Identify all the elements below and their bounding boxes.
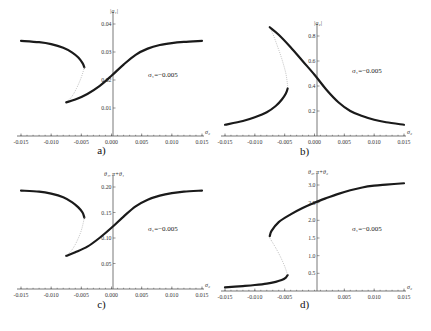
x-tick-label: 0.010: [368, 294, 381, 300]
x-tick-label: 0.010: [368, 139, 381, 145]
x-tick-label: -0.005: [74, 292, 89, 298]
panel-b: -0.015-0.010-0.0050.0000.0050.0100.0150.…: [218, 20, 413, 158]
x-tick-label: 0.000: [105, 292, 118, 298]
x-tick-label: 0.015: [397, 139, 410, 145]
x-tick-label: 0.010: [165, 292, 178, 298]
y-axis-label: θ₁, π+θ₁: [104, 171, 124, 177]
x-tick-label: 0.015: [195, 292, 208, 298]
sigma1-annotation: σ₁=−0.005: [352, 225, 382, 233]
y-tick-label: 0.4: [308, 83, 315, 89]
y-tick-label: 2.0: [308, 217, 315, 223]
y-tick-label: 0.8: [308, 33, 315, 39]
y-tick-label: 1.0: [308, 253, 315, 259]
x-axis-label: σ₂: [205, 129, 210, 135]
x-axis-label: σ₂: [407, 129, 412, 135]
series-unstable: [270, 238, 288, 275]
panel-d: -0.015-0.010-0.0050.0050.0100.0150.51.01…: [218, 169, 413, 311]
y-tick-label: 0.20: [101, 184, 111, 190]
x-tick-label: 0.000: [105, 139, 118, 145]
y-tick-label: 0.15: [101, 210, 111, 216]
x-tick-label: 0.005: [135, 292, 148, 298]
x-tick-label: -0.015: [218, 139, 233, 145]
x-tick-label: -0.015: [14, 292, 29, 298]
x-tick-label: -0.005: [277, 139, 292, 145]
series-stable-lower: [66, 41, 202, 103]
y-axis-label: |a₂|: [314, 20, 323, 26]
series-stable-lower: [225, 89, 288, 125]
y-tick-label: 0.01: [101, 105, 111, 111]
series-stable-lower: [66, 191, 202, 256]
y-tick-label: 0.03: [101, 49, 111, 55]
panel-a: -0.015-0.010-0.0050.0000.0050.0100.0150.…: [14, 8, 211, 157]
series-stable-upper: [270, 27, 404, 125]
x-tick-label: -0.010: [44, 292, 59, 298]
panel-label: c): [97, 298, 106, 311]
y-tick-label: 0.5: [308, 270, 315, 276]
x-tick-label: 0.005: [338, 294, 351, 300]
series-stable-upper: [21, 41, 84, 68]
x-tick-label: -0.005: [74, 139, 89, 145]
x-tick-label: 0.015: [195, 139, 208, 145]
x-tick-label: -0.015: [218, 294, 233, 300]
y-tick-label: 3.0: [308, 182, 315, 188]
y-tick-label: 1.5: [308, 235, 315, 241]
panel-label: d): [300, 298, 310, 311]
y-tick-label: 0.6: [308, 58, 315, 64]
x-tick-label: 0.005: [338, 139, 351, 145]
x-tick-label: -0.015: [14, 139, 29, 145]
x-tick-label: 0.005: [135, 139, 148, 145]
series-stable-upper: [21, 191, 84, 218]
sigma1-annotation: σ₁=−0.005: [148, 71, 178, 79]
x-tick-label: 0.015: [397, 294, 410, 300]
sigma1-annotation: σ₁=−0.005: [352, 67, 382, 75]
sigma1-annotation: σ₁=−0.005: [148, 225, 178, 233]
series-stable-upper: [270, 183, 404, 236]
x-tick-label: 0.010: [165, 139, 178, 145]
y-axis-label: θ₂, π+θ₂: [308, 169, 328, 175]
y-axis-label: |a₁|: [110, 8, 119, 14]
x-tick-label: -0.005: [277, 294, 292, 300]
x-axis-label: σ₂: [407, 284, 412, 290]
x-tick-label: -0.010: [247, 294, 262, 300]
panel-c: -0.015-0.010-0.0050.0000.0050.0100.0150.…: [14, 171, 211, 311]
x-tick-label: -0.010: [44, 139, 59, 145]
panel-label: a): [97, 144, 106, 157]
x-axis-label: σ₂: [205, 282, 210, 288]
panel-label: b): [300, 145, 310, 158]
series-stable-lower: [225, 275, 288, 287]
y-tick-label: 0.04: [101, 21, 111, 27]
x-tick-label: -0.010: [247, 139, 262, 145]
y-tick-label: 0.2: [308, 108, 315, 114]
figure: -0.015-0.010-0.0050.0000.0050.0100.0150.…: [0, 0, 431, 331]
y-tick-label: 0.05: [101, 261, 111, 267]
x-tick-label: 0.000: [308, 139, 321, 145]
